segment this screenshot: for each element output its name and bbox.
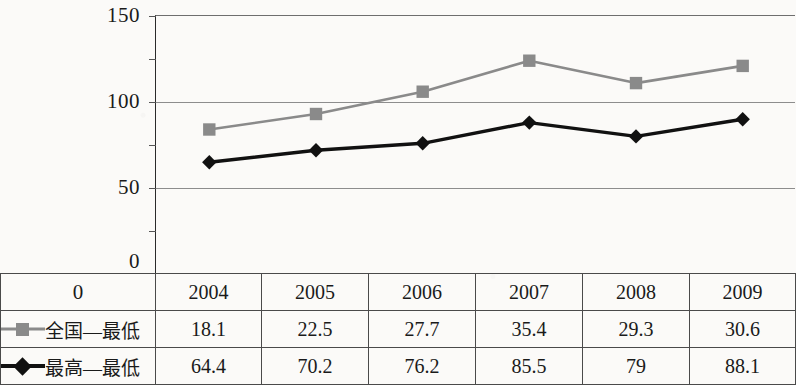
table-header-row: 0 2004 2005 2006 2007 2008 2009 [1,274,796,311]
series-line [209,61,742,130]
data-point-square [630,77,642,89]
data-point-diamond [309,143,323,157]
data-point-square [310,108,322,120]
data-point-diamond [416,136,430,150]
data-point-diamond [629,129,643,143]
series-plot [156,16,796,274]
table-header-2005: 2005 [262,274,369,311]
plot-area [155,15,795,273]
data-point-square [523,55,535,67]
table-header-2004: 2004 [156,274,262,311]
series-1 [203,55,749,136]
cell-s1-2005: 22.5 [262,311,369,348]
y-tickmark-125 [149,59,156,60]
table-header-2008: 2008 [583,274,690,311]
cell-s1-2007: 35.4 [476,311,583,348]
data-point-square [203,123,215,135]
y-tickmark-50 [149,188,156,189]
data-point-square [417,86,429,98]
cell-s2-2004: 64.4 [156,348,262,385]
y-axis-labels: 150 100 50 0 [78,0,140,273]
table-header-2006: 2006 [369,274,476,311]
y-tickmark-75 [149,145,156,146]
data-point-diamond [736,112,750,126]
axis-origin-label: 0 [1,274,156,311]
cell-s2-2009: 88.1 [690,348,796,385]
table-row: 最高—最低 64.4 70.2 76.2 85.5 79 88.1 [1,348,796,385]
line-chart: 150 100 50 0 [0,0,795,273]
cell-s2-2007: 85.5 [476,348,583,385]
y-tick-100: 100 [80,91,140,112]
data-point-square [737,60,749,72]
table-row: 全国—最低 18.1 22.5 27.7 35.4 29.3 30.6 [1,311,796,348]
y-tickmark-150 [149,16,156,17]
cell-s1-2006: 27.7 [369,311,476,348]
legend-item-national-minus-lowest: 全国—最低 [1,311,156,348]
y-tickmark-25 [149,231,156,232]
legend-label-series-1: 全国—最低 [45,316,140,343]
series-2 [202,112,750,169]
cell-s2-2005: 70.2 [262,348,369,385]
cell-s1-2009: 30.6 [690,311,796,348]
data-point-diamond [202,155,216,169]
data-point-diamond [522,115,536,129]
series-line [209,119,742,162]
legend-item-highest-minus-lowest: 最高—最低 [1,348,156,385]
data-table-region: 0 2004 2005 2006 2007 2008 2009 [0,273,795,384]
diamond-marker-icon [1,357,45,375]
y-tickmark-100 [149,102,156,103]
data-table: 0 2004 2005 2006 2007 2008 2009 [0,273,796,385]
square-marker-icon [1,320,45,338]
cell-s1-2004: 18.1 [156,311,262,348]
y-tick-0: 0 [80,251,140,272]
cell-s2-2008: 79 [583,348,690,385]
table-header-2009: 2009 [690,274,796,311]
legend-label-series-2: 最高—最低 [45,353,140,380]
cell-s2-2006: 76.2 [369,348,476,385]
y-tick-150: 150 [80,5,140,26]
y-tick-50: 50 [80,177,140,198]
cell-s1-2008: 29.3 [583,311,690,348]
table-header-2007: 2007 [476,274,583,311]
